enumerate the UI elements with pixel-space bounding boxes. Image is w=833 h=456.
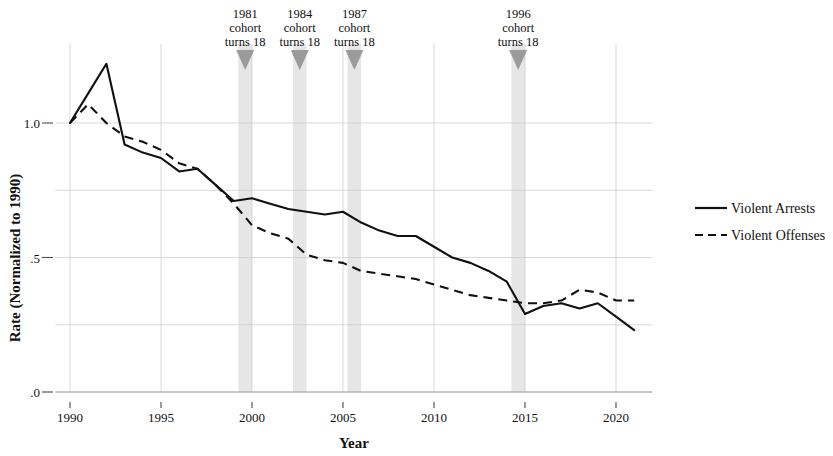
chart-container: 1981cohortturns 181984cohortturns 181987… xyxy=(0,0,833,456)
y-tick-labels-group: .0.51.0 xyxy=(24,116,40,400)
legend-label: Violent Arrests xyxy=(731,201,815,216)
cohort-annotation-line-1: 1987 xyxy=(342,7,367,21)
axes-group xyxy=(42,123,652,408)
cohort-annotation-line-1: 1981 xyxy=(233,7,258,21)
cohort-annotation-line-2: cohort xyxy=(338,21,370,35)
cohort-annotation-2014: 1996cohortturns 18 xyxy=(498,7,539,70)
cohort-annotation-line-3: turns 18 xyxy=(279,35,320,49)
cohort-annotation-line-1: 1996 xyxy=(506,7,531,21)
cohort-band-1999 xyxy=(238,44,252,392)
cohort-annotation-1999: 1981cohortturns 18 xyxy=(225,7,266,70)
x-axis-title: Year xyxy=(339,435,369,451)
y-axis-title: Rate (Normalized to 1990) xyxy=(7,174,24,343)
x-tick-label-2015: 2015 xyxy=(512,410,538,425)
violent-crime-line-chart: 1981cohortturns 181984cohortturns 181987… xyxy=(0,0,833,456)
cohort-bands-group xyxy=(238,44,525,392)
y-tick-label-1dot0: 1.0 xyxy=(24,116,40,131)
x-tick-labels-group: 1990199520002005201020152020 xyxy=(57,410,629,425)
legend-label: Violent Offenses xyxy=(731,228,825,243)
cohort-band-2014 xyxy=(511,44,525,392)
cohort-annotation-line-3: turns 18 xyxy=(498,35,539,49)
x-tick-label-1990: 1990 xyxy=(57,410,83,425)
cohort-annotation-line-3: turns 18 xyxy=(334,35,375,49)
cohort-annotation-line-2: cohort xyxy=(284,21,316,35)
cohort-annotation-line-2: cohort xyxy=(502,21,534,35)
cohort-annotation-line-2: cohort xyxy=(229,21,261,35)
cohort-annotation-line-1: 1984 xyxy=(287,7,313,21)
y-tick-label-dot0: .0 xyxy=(30,385,40,400)
x-tick-label-2010: 2010 xyxy=(421,410,447,425)
x-tick-label-1995: 1995 xyxy=(148,410,174,425)
legend: Violent ArrestsViolent Offenses xyxy=(695,201,825,243)
cohort-annotation-2002: 1984cohortturns 18 xyxy=(279,7,320,70)
x-tick-label-2000: 2000 xyxy=(239,410,265,425)
cohort-band-2002 xyxy=(293,44,307,392)
cohort-annotation-2005: 1987cohortturns 18 xyxy=(334,7,375,70)
annotations-group: 1981cohortturns 181984cohortturns 181987… xyxy=(225,7,539,70)
x-tick-label-2005: 2005 xyxy=(330,410,356,425)
legend-item-violent-offenses[interactable]: Violent Offenses xyxy=(695,228,825,243)
x-tick-label-2020: 2020 xyxy=(603,410,629,425)
cohort-annotation-line-3: turns 18 xyxy=(225,35,266,49)
legend-item-violent-arrests[interactable]: Violent Arrests xyxy=(695,201,815,216)
y-tick-label-dot5: .5 xyxy=(30,251,40,266)
